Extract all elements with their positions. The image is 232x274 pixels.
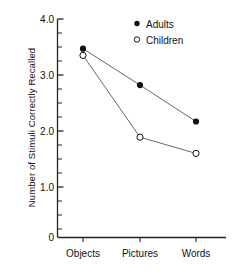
chart-figure: Number of Stimuli Correctly Recalled 4.0… <box>0 0 232 274</box>
legend-marker-children <box>134 37 139 42</box>
series-children-markers <box>80 52 199 156</box>
series-adults-markers <box>80 46 199 125</box>
y-axis <box>58 19 64 237</box>
legend-marker-adults <box>134 21 139 26</box>
x-axis <box>58 238 227 243</box>
chart-canvas <box>0 0 232 274</box>
